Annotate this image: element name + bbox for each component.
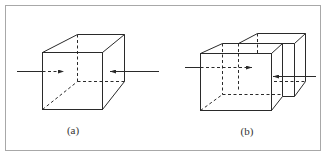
panel-a: (a) bbox=[17, 35, 159, 138]
panel-b: (b) bbox=[185, 34, 316, 139]
panel-a-label: (a) bbox=[67, 124, 80, 137]
figure-frame bbox=[6, 6, 321, 151]
panel-b-label: (b) bbox=[241, 125, 254, 138]
figure-canvas: (a) bbox=[0, 0, 324, 153]
cube-a-top-edges bbox=[43, 35, 125, 53]
cube-a-front-face bbox=[43, 53, 103, 110]
cube-b-back-top-edges bbox=[239, 34, 306, 44]
cube-b-front-face bbox=[201, 54, 272, 111]
cube-b-back-right-edges bbox=[295, 34, 306, 97]
cube-arrows-figure: (a) bbox=[0, 0, 324, 153]
cube-a-hidden-diagonal bbox=[43, 82, 78, 110]
cube-b-front bbox=[201, 44, 283, 111]
cube-b-front-top-edges bbox=[201, 44, 283, 54]
